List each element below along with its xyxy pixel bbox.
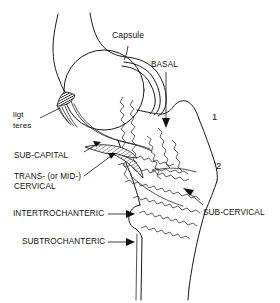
label-intertrochanteric: INTERTROCHANTERIC [13,209,104,218]
femur-fracture-diagram: Capsule BASAL ligt teres SUB-CAPITAL TRA… [0,0,280,303]
label-subtrochanteric: SUBTROCHANTERIC [22,237,105,246]
label-sub-capital: SUB-CAPITAL [14,151,68,160]
label-marker-two: 2 [216,161,221,172]
label-trans-cervical-line2: CERVICAL [14,182,56,191]
label-basal: BASAL [151,60,178,69]
label-trans-cervical-line1: TRANS- (or MID-) [14,172,81,181]
label-sub-cervical: SUB-CERVICAL [203,208,265,217]
label-ligt-teres-line2: teres [13,122,31,131]
label-capsule: Capsule [112,31,144,41]
label-marker-one: 1 [212,112,217,123]
label-ligt-teres-line1: ligt [13,111,24,120]
